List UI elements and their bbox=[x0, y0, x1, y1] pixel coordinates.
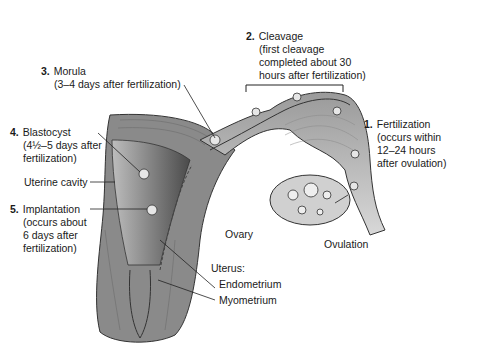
label-morula: 3.Morula (3–4 days after fertilization) bbox=[41, 65, 181, 91]
ovary-text: Ovary bbox=[225, 228, 253, 240]
myometrium-text: Myometrium bbox=[219, 294, 277, 306]
uterine-cavity-text: Uterine cavity bbox=[24, 176, 88, 188]
uterus-text: Uterus: bbox=[211, 262, 245, 274]
step-detail: 12–24 hours bbox=[364, 144, 446, 157]
endometrium-text: Endometrium bbox=[219, 278, 281, 290]
label-endometrium: Endometrium bbox=[219, 278, 281, 291]
label-uterine-cavity: Uterine cavity bbox=[24, 176, 88, 189]
label-fertilization: 1.Fertilization (occurs within 12–24 hou… bbox=[364, 118, 446, 170]
label-myometrium: Myometrium bbox=[219, 294, 277, 307]
step-title: Cleavage bbox=[259, 30, 303, 42]
label-uterus: Uterus: bbox=[211, 262, 245, 275]
label-ovulation: Ovulation bbox=[324, 238, 368, 251]
ovary-illustration bbox=[270, 175, 350, 225]
step-detail: (occurs within bbox=[364, 131, 446, 144]
step-number: 5. bbox=[10, 203, 19, 215]
step-detail: hours after fertilization) bbox=[246, 69, 366, 82]
step-detail: after ovulation) bbox=[364, 157, 446, 170]
step-detail: 6 days after bbox=[10, 229, 87, 242]
ovulation-text: Ovulation bbox=[324, 238, 368, 250]
step-detail: completed about 30 bbox=[246, 56, 366, 69]
step-title: Morula bbox=[54, 65, 86, 77]
step-number: 1. bbox=[364, 118, 373, 130]
label-implantation: 5.Implantation (occurs about 6 days afte… bbox=[10, 203, 87, 255]
cleavage-bracket bbox=[246, 85, 343, 92]
step-detail: (first cleavage bbox=[246, 43, 366, 56]
step-detail: fertilization) bbox=[10, 242, 87, 255]
step-number: 3. bbox=[41, 65, 50, 77]
label-ovary: Ovary bbox=[225, 228, 253, 241]
step-detail: (occurs about bbox=[10, 216, 87, 229]
step-number: 2. bbox=[246, 30, 255, 42]
step-detail: (3–4 days after fertilization) bbox=[41, 78, 181, 91]
step-detail: fertilization) bbox=[10, 152, 102, 165]
step-title: Fertilization bbox=[377, 118, 431, 130]
step-title: Blastocyst bbox=[23, 126, 71, 138]
label-cleavage: 2.Cleavage (first cleavage completed abo… bbox=[246, 30, 366, 82]
label-blastocyst: 4.Blastocyst (4½–5 days after fertilizat… bbox=[10, 126, 102, 165]
step-title: Implantation bbox=[23, 203, 80, 215]
step-number: 4. bbox=[10, 126, 19, 138]
step-detail: (4½–5 days after bbox=[10, 139, 102, 152]
